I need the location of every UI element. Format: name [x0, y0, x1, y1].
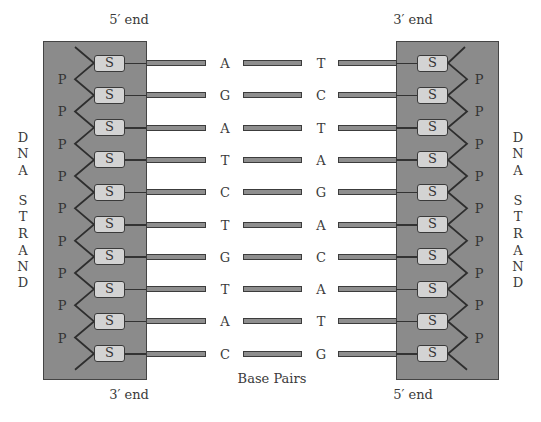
right-bond-bar [338, 125, 397, 131]
hydrogen-bond-bar [243, 60, 302, 66]
left-strand-top-label: 5′ end [109, 12, 149, 27]
base-pairs-caption: Base Pairs [238, 371, 307, 386]
left-phosphate-label: P [58, 72, 67, 87]
left-base: C [220, 185, 230, 200]
hydrogen-bond-bar [243, 157, 302, 163]
left-sugar-link [125, 353, 147, 355]
right-phosphate-label: P [475, 136, 484, 151]
right-base: C [316, 88, 326, 103]
left-bond-bar [146, 92, 206, 98]
left-sugar-link [125, 321, 147, 323]
strand-label-letter: D [18, 130, 28, 145]
left-phosphate-label: P [58, 169, 67, 184]
left-base: A [220, 56, 229, 71]
right-bond-bar [338, 254, 397, 260]
left-sugar-link [125, 289, 147, 291]
strand-label-letter: D [18, 275, 28, 290]
right-bond-bar [338, 60, 397, 66]
right-base: G [316, 346, 326, 361]
right-base: T [317, 56, 326, 71]
right-phosphate-label: P [475, 233, 484, 248]
right-phosphate-label: P [475, 104, 484, 119]
strand-label-letter: R [513, 226, 523, 241]
left-base: A [220, 314, 229, 329]
right-bond-bar [338, 157, 397, 163]
hydrogen-bond-bar [243, 351, 302, 357]
right-sugar-link [396, 159, 418, 161]
left-phosphate-label: P [58, 298, 67, 313]
right-bond-bar [338, 189, 397, 195]
right-sugar: S [417, 281, 448, 298]
left-sugar-link [125, 224, 147, 226]
left-sugar-link [125, 159, 147, 161]
left-sugar-link [125, 63, 147, 65]
left-base: G [220, 88, 230, 103]
right-phosphate-label: P [475, 298, 484, 313]
right-sugar: S [417, 119, 448, 136]
right-sugar: S [417, 87, 448, 104]
left-sugar: S [94, 281, 125, 298]
left-bond-bar [146, 351, 206, 357]
right-sugar-link [396, 63, 418, 65]
right-bond-bar [338, 222, 397, 228]
left-bond-bar [146, 125, 206, 131]
left-sugar-link [125, 95, 147, 97]
left-phosphate-label: P [58, 233, 67, 248]
right-base: C [316, 249, 326, 264]
left-phosphate-label: P [58, 136, 67, 151]
strand-label-letter: N [512, 146, 523, 161]
left-sugar: S [94, 87, 125, 104]
right-sugar: S [417, 313, 448, 330]
left-bond-bar [146, 60, 206, 66]
hydrogen-bond-bar [243, 125, 302, 131]
right-sugar: S [417, 216, 448, 233]
strand-label-letter: A [513, 163, 522, 178]
left-sugar: S [94, 184, 125, 201]
right-bond-bar [338, 286, 397, 292]
left-sugar-link [125, 192, 147, 194]
right-sugar: S [417, 345, 448, 362]
left-base: A [220, 120, 229, 135]
strand-label-letter: R [18, 226, 28, 241]
strand-label-letter: N [17, 259, 28, 274]
strand-label-letter: D [513, 130, 523, 145]
hydrogen-bond-bar [243, 92, 302, 98]
left-sugar: S [94, 216, 125, 233]
right-phosphate-label: P [475, 72, 484, 87]
left-bond-bar [146, 254, 206, 260]
left-sugar-link [125, 127, 147, 129]
strand-label-letter: S [19, 193, 28, 208]
left-base: C [220, 346, 230, 361]
right-bond-bar [338, 92, 397, 98]
strand-label-letter: D [513, 275, 523, 290]
left-sugar: S [94, 313, 125, 330]
left-sugar: S [94, 55, 125, 72]
hydrogen-bond-bar [243, 318, 302, 324]
left-bond-bar [146, 157, 206, 163]
hydrogen-bond-bar [243, 222, 302, 228]
hydrogen-bond-bar [243, 254, 302, 260]
left-phosphate-label: P [58, 201, 67, 216]
hydrogen-bond-bar [243, 189, 302, 195]
right-strand-bottom-label: 5′ end [393, 387, 433, 402]
left-sugar: S [94, 345, 125, 362]
strand-label-letter: T [514, 209, 523, 224]
strand-label-letter: A [18, 243, 27, 258]
right-sugar-link [396, 95, 418, 97]
left-sugar: S [94, 151, 125, 168]
right-sugar-link [396, 192, 418, 194]
left-sugar: S [94, 248, 125, 265]
left-base: T [221, 152, 230, 167]
right-sugar-link [396, 289, 418, 291]
right-strand-top-label: 3′ end [393, 12, 433, 27]
strand-label-letter: N [512, 259, 523, 274]
hydrogen-bond-bar [243, 286, 302, 292]
right-sugar: S [417, 151, 448, 168]
right-sugar-link [396, 256, 418, 258]
strand-label-letter: A [18, 163, 27, 178]
right-sugar: S [417, 248, 448, 265]
right-bond-bar [338, 318, 397, 324]
left-bond-bar [146, 189, 206, 195]
left-sugar: S [94, 119, 125, 136]
right-sugar-link [396, 353, 418, 355]
